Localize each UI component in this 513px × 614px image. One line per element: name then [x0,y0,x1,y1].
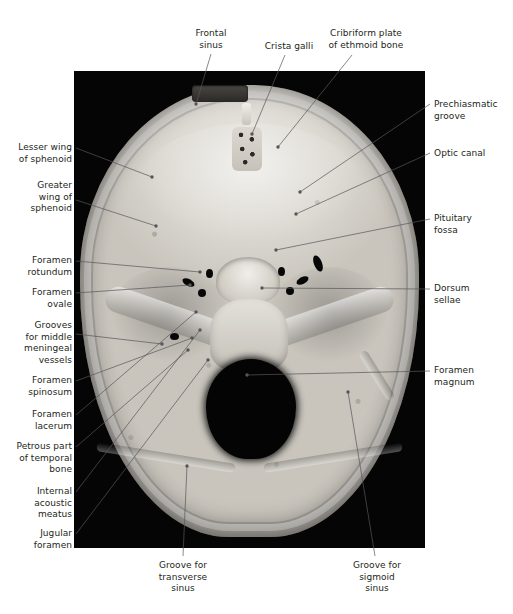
foramen-spinosum-right-hole [286,287,294,295]
label-crista-galli: Crista galli [258,41,320,53]
sella-turcica [216,257,280,305]
label-petrous-temporal: Petrous part of temporal bone [8,441,72,476]
jugular-foramen-left-hole [170,333,179,340]
label-jugular-foramen: Jugular foramen [8,528,72,551]
label-optic-canal: Optic canal [434,148,510,160]
label-foramen-magnum: Foramen magnum [434,365,510,388]
label-frontal-sinus: Frontal sinus [178,28,244,51]
label-cribriform-plate: Cribriform plate of ethmoid bone [320,28,412,51]
frontal-sinus-opening [192,85,248,102]
crista-galli-crest [242,103,251,125]
label-prechiasmatic-groove: Prechiasmatic groove [434,99,510,122]
label-foramen-spinosum: Foramen spinosum [8,375,72,398]
label-greater-wing-sphenoid: Greater wing of sphenoid [8,180,72,215]
foramen-magnum-opening [206,359,296,459]
foramen-spinosum-left-hole [198,289,206,297]
label-groove-sigmoid-sinus: Groove for sigmoid sinus [340,560,414,595]
label-internal-acoustic-meatus: Internal acoustic meatus [8,486,72,521]
foramen-lacerum-left-hole [206,269,213,278]
label-lesser-wing-sphenoid: Lesser wing of sphenoid [8,142,72,165]
label-groove-transverse-sinus: Groove for transverse sinus [146,560,220,595]
specimen-photo-panel [74,71,425,548]
skull-base-figure: Frontal sinusCrista galliCribriform plat… [0,0,513,614]
cribriform-plate-perforations [232,127,262,171]
label-foramen-rotundum: Foramen rotundum [8,255,72,278]
label-pituitary-fossa: Pituitary fossa [434,213,510,236]
label-dorsum-sellae: Dorsum sellae [434,283,510,306]
foramen-lacerum-right-hole [278,267,285,276]
label-grooves-middle-meningeal: Grooves for middle meningeal vessels [8,320,72,366]
label-foramen-ovale: Foramen ovale [8,287,72,310]
label-foramen-lacerum: Foramen lacerum [8,409,72,432]
